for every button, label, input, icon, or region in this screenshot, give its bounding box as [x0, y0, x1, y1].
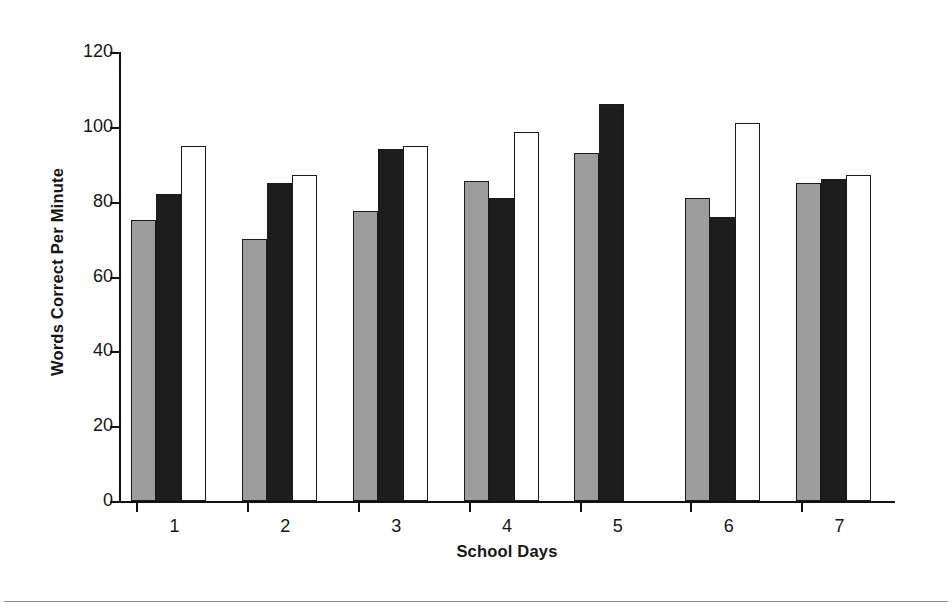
x-tick-label: 2 [265, 516, 305, 537]
bar [353, 211, 378, 501]
y-tick-label: 20 [93, 415, 113, 436]
x-tick-label: 1 [154, 516, 194, 537]
x-axis-line [119, 501, 895, 503]
y-tick-label: 60 [93, 266, 113, 287]
bar [131, 220, 156, 501]
bar [464, 181, 489, 501]
bar [685, 198, 710, 501]
bar [735, 123, 760, 501]
bar [181, 146, 206, 501]
bar [796, 183, 821, 501]
x-tick-mark [247, 503, 249, 512]
y-tick-label: 40 [93, 340, 113, 361]
x-tick-label: 6 [709, 516, 749, 537]
bar [821, 179, 846, 501]
bar [242, 239, 267, 501]
bar [514, 132, 539, 501]
bar [710, 217, 735, 501]
bar [574, 153, 599, 501]
x-tick-label: 7 [820, 516, 860, 537]
page-divider-rule [4, 601, 948, 602]
x-tick-mark [801, 503, 803, 512]
x-tick-mark [580, 503, 582, 512]
y-axis-line [119, 52, 121, 503]
bar [156, 194, 181, 501]
bar [267, 183, 292, 501]
y-axis-title: Words Correct Per Minute [42, 32, 72, 512]
x-tick-mark [358, 503, 360, 512]
y-tick-label: 80 [93, 191, 113, 212]
x-tick-label: 5 [598, 516, 638, 537]
bar [599, 104, 624, 501]
bar [846, 175, 871, 501]
x-tick-mark [469, 503, 471, 512]
x-tick-label: 3 [376, 516, 416, 537]
x-tick-mark [690, 503, 692, 512]
bar [292, 175, 317, 501]
y-tick-label: 120 [83, 41, 113, 62]
x-tick-label: 4 [487, 516, 527, 537]
bar [378, 149, 403, 501]
plot-area: 020406080100120 1234567 [119, 52, 895, 502]
x-tick-mark [136, 503, 138, 512]
y-tick-label: 0 [103, 490, 113, 511]
y-tick-label: 100 [83, 116, 113, 137]
chart-page: Words Correct Per Minute 020406080100120… [0, 0, 952, 615]
x-axis-title: School Days [119, 542, 895, 561]
bar [489, 198, 514, 501]
bar [403, 146, 428, 501]
